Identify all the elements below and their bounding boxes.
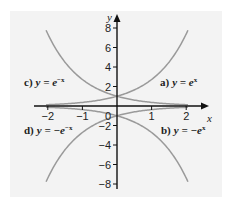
- chart-svg: −2−1012−8−6−4−22468 x y c)y = e−x a)y = …: [0, 0, 227, 204]
- y-tick-label: −6: [98, 159, 111, 171]
- x-axis-arrow-icon: [201, 103, 209, 110]
- label-c: c)y = e−x: [24, 76, 65, 89]
- y-axis-arrow-icon: [114, 14, 121, 22]
- y-tick-label: −8: [98, 178, 111, 190]
- y-tick-label: 6: [105, 42, 111, 54]
- label-a: a)y = ex: [160, 76, 198, 89]
- y-axis-label: y: [106, 11, 112, 23]
- x-tick-label: −2: [42, 110, 55, 122]
- y-tick-label: 4: [105, 61, 111, 73]
- label-d: d)y = −e−x: [24, 124, 73, 137]
- y-tick-label: 2: [105, 81, 111, 93]
- x-tick-label: 2: [183, 110, 189, 122]
- y-tick-label: −2: [98, 120, 111, 132]
- y-tick-label: 8: [105, 22, 111, 34]
- y-tick-label: −4: [98, 139, 111, 151]
- x-axis-label: x: [206, 112, 212, 124]
- x-tick-label: 1: [149, 110, 155, 122]
- label-b: b)y = −ex: [161, 124, 206, 137]
- x-tick-label: −1: [76, 110, 89, 122]
